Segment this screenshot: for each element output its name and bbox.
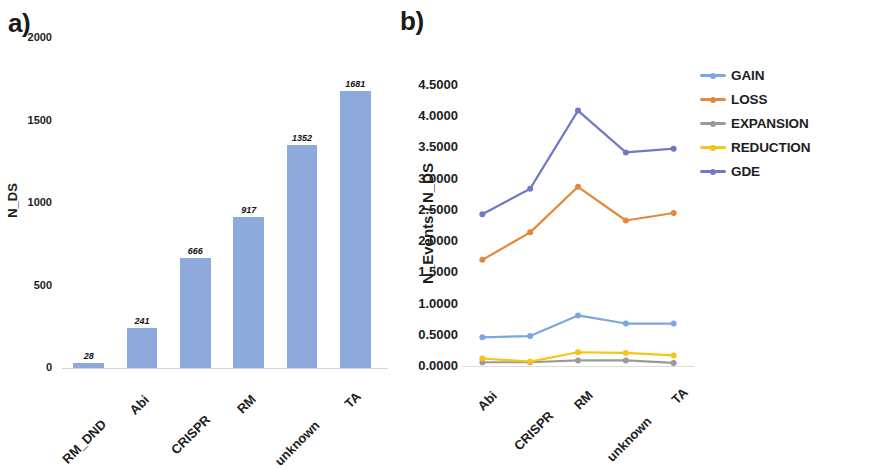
panel-b-category-label: CRISPR (512, 409, 556, 453)
legend-label: LOSS (731, 92, 767, 107)
panel-b-y-tick: 2.0000 (402, 234, 458, 247)
series-point[interactable] (575, 312, 581, 318)
series-point[interactable] (479, 334, 485, 340)
panel-b-y-tick: 3.5000 (402, 140, 458, 153)
series-point[interactable] (623, 350, 629, 356)
bar-value-label: 1352 (292, 134, 312, 143)
panel-b-y-tick: 1.0000 (402, 297, 458, 310)
panel-a-y-tick: 500 (4, 280, 52, 291)
panel-b-series-svg (468, 85, 688, 366)
legend-item-reduction[interactable]: REDUCTION (700, 140, 810, 155)
legend-swatch-icon (700, 146, 726, 149)
series-point[interactable] (575, 349, 581, 355)
bar[interactable] (233, 217, 264, 368)
series-point[interactable] (671, 352, 677, 358)
panel-b-plot-area (468, 85, 688, 366)
bar[interactable] (180, 258, 211, 368)
series-expansion[interactable] (479, 357, 676, 365)
legend-label: GAIN (731, 68, 764, 83)
series-gde[interactable] (479, 108, 676, 218)
bar-value-label: 1681 (345, 80, 365, 89)
series-point[interactable] (623, 218, 629, 224)
panel-b-x-axis-line (462, 366, 694, 367)
panel-a-category-label: TA (343, 390, 364, 411)
bar[interactable] (287, 145, 318, 368)
panel-b-y-tick: 0.0000 (402, 359, 458, 372)
bar-group[interactable]: 1681 (340, 38, 371, 368)
panel-a-category-label: RM_DND (60, 417, 109, 466)
bar-group[interactable]: 666 (180, 38, 211, 368)
series-point[interactable] (623, 321, 629, 327)
panel-b-y-tick: 4.0000 (402, 109, 458, 122)
panel-b-legend: GAINLOSSEXPANSIONREDUCTIONGDE (700, 68, 810, 179)
bar[interactable] (340, 91, 371, 368)
series-line (482, 111, 673, 215)
panel-b-category-label: unknown (604, 414, 654, 464)
series-point[interactable] (527, 359, 533, 365)
series-point[interactable] (479, 211, 485, 217)
series-point[interactable] (527, 186, 533, 192)
panel-a-category-label: CRISPR (169, 413, 213, 457)
series-point[interactable] (671, 321, 677, 327)
bar[interactable] (127, 328, 158, 368)
panel-a-bar-chart: N_DS 2000150010005000 282416669171352168… (0, 0, 400, 427)
bar[interactable] (73, 363, 104, 368)
panel-b-category-label: TA (669, 386, 690, 407)
series-line (482, 315, 673, 337)
bar-value-label: 917 (241, 206, 256, 215)
panel-b-y-tick: 1.5000 (402, 265, 458, 278)
panel-b-y-tick: 4.5000 (402, 78, 458, 91)
legend-swatch-icon (700, 74, 726, 77)
bar-group[interactable]: 241 (127, 38, 158, 368)
legend-label: EXPANSION (731, 116, 809, 131)
panel-a-y-tick: 0 (4, 362, 52, 373)
panel-a-category-label: unknown (272, 418, 322, 468)
series-point[interactable] (575, 108, 581, 114)
panel-b-category-label: RM (572, 388, 595, 411)
legend-label: REDUCTION (731, 140, 810, 155)
panel-b-y-tick: 2.5000 (402, 203, 458, 216)
bar-value-label: 28 (84, 352, 94, 361)
panel-a-x-axis-line (62, 368, 388, 369)
bar-group[interactable]: 917 (233, 38, 264, 368)
legend-item-gain[interactable]: GAIN (700, 68, 810, 83)
series-point[interactable] (671, 146, 677, 152)
legend-item-expansion[interactable]: EXPANSION (700, 116, 810, 131)
panel-a-y-tick: 2000 (4, 32, 52, 43)
panel-a-y-tick: 1000 (4, 197, 52, 208)
series-point[interactable] (527, 333, 533, 339)
series-point[interactable] (527, 229, 533, 235)
bar-value-label: 241 (134, 317, 149, 326)
series-point[interactable] (575, 357, 581, 363)
series-point[interactable] (671, 210, 677, 216)
panel-b-line-chart: N_Events / N_DS 4.50004.00003.50003.0000… (400, 0, 878, 427)
series-point[interactable] (575, 184, 581, 190)
series-loss[interactable] (479, 184, 676, 263)
series-point[interactable] (623, 149, 629, 155)
series-point[interactable] (671, 360, 677, 366)
panel-a-y-tick: 1500 (4, 115, 52, 126)
legend-swatch-icon (700, 170, 726, 173)
legend-label: GDE (731, 164, 760, 179)
panel-b-y-tick: 0.5000 (402, 328, 458, 341)
panel-a-plot-area: 2824166691713521681 (62, 38, 382, 368)
legend-swatch-icon (700, 122, 726, 125)
panel-b-category-label: Abi (476, 389, 500, 413)
legend-item-gde[interactable]: GDE (700, 164, 810, 179)
bar-value-label: 666 (188, 247, 203, 256)
bar-group[interactable]: 28 (73, 38, 104, 368)
series-point[interactable] (479, 356, 485, 362)
panel-a-category-label: Abi (127, 393, 151, 417)
series-gain[interactable] (479, 312, 676, 340)
panel-b-y-tick: 3.0000 (402, 172, 458, 185)
legend-item-loss[interactable]: LOSS (700, 92, 810, 107)
series-point[interactable] (623, 357, 629, 363)
bar-group[interactable]: 1352 (287, 38, 318, 368)
series-point[interactable] (479, 257, 485, 263)
panel-a-category-label: RM (234, 392, 257, 415)
legend-swatch-icon (700, 98, 726, 101)
